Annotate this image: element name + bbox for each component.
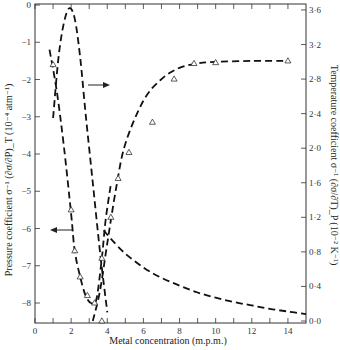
y-right-tick-label: 1·6: [309, 178, 321, 188]
y-right-tick-label: 0·0: [309, 316, 321, 326]
triangle-marker: [68, 207, 74, 212]
y-left-tick-label: −6: [21, 224, 31, 234]
triangle-marker: [99, 255, 105, 260]
triangle-marker: [77, 274, 83, 279]
x-tick-label: 2: [69, 326, 74, 336]
triangle-marker: [126, 149, 132, 154]
plot-border: [35, 4, 306, 323]
x-axis-label: Metal concentration (m.p.m.): [109, 335, 226, 347]
left-arrow-head-icon: [50, 227, 57, 233]
right-arrow-head-icon: [103, 82, 110, 88]
y-left-tick-label: −3: [21, 112, 31, 122]
triangle-marker: [99, 318, 105, 323]
triangle-marker: [171, 76, 177, 81]
axis-ticks: 024681012140−1−2−3−4−5−6−7−80·00·40·81·2…: [21, 0, 321, 336]
triangle-marker: [285, 58, 291, 63]
y-right-tick-label: 2·0: [309, 143, 321, 153]
curve-series-2: [93, 61, 288, 321]
y-right-tick-label: 2·4: [309, 109, 321, 119]
y-right-tick-label: 1·2: [309, 212, 321, 222]
curve-series-3: [104, 230, 306, 314]
x-tick-label: 14: [283, 326, 293, 336]
y-left-tick-label: 0: [27, 0, 32, 10]
y-left-tick-label: −7: [21, 261, 31, 271]
y-left-tick-label: −5: [21, 186, 31, 196]
y-axis-right-label: Temperature coefficient σ⁻¹ (∂σ/∂T)_P (1…: [328, 65, 340, 266]
triangle-marker: [115, 175, 121, 180]
y-right-tick-label: 3·2: [309, 40, 321, 50]
y-left-tick-label: −8: [21, 298, 31, 308]
triangle-marker: [72, 248, 78, 253]
y-right-tick-label: 0·8: [309, 247, 321, 257]
triangle-marker: [108, 214, 114, 219]
curve-series-1: [53, 8, 107, 312]
y-axis-left-label: Pressure coefficient σ⁻¹ (∂σ/∂P)_T (10⁻⁴…: [3, 84, 15, 277]
y-right-tick-label: 2·8: [309, 74, 321, 84]
chart: 024681012140−1−2−3−4−5−6−7−80·00·40·81·2…: [0, 0, 340, 350]
y-left-tick-label: −1: [21, 37, 31, 47]
x-tick-label: 12: [247, 326, 256, 336]
plot-frame: [35, 4, 306, 323]
data-markers: [50, 58, 291, 323]
y-right-tick-label: 0·4: [309, 281, 321, 291]
y-left-tick-label: −2: [21, 75, 31, 85]
x-tick-label: 0: [33, 326, 38, 336]
y-left-tick-label: −4: [21, 149, 31, 159]
triangle-marker: [149, 119, 155, 124]
data-curves: [50, 8, 307, 321]
y-right-tick-label: 3·6: [309, 5, 321, 15]
triangle-marker: [191, 60, 197, 65]
curve-series-0: [50, 50, 111, 304]
